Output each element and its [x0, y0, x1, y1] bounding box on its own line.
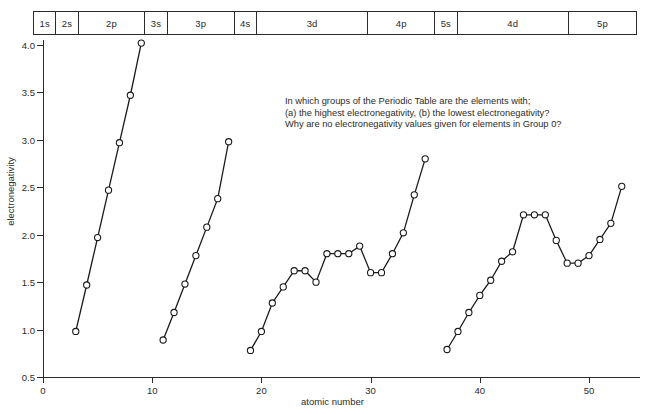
data-point-marker: [313, 279, 319, 285]
x-tick: [480, 377, 481, 383]
x-tick-label: 10: [147, 385, 158, 396]
data-point-marker: [575, 260, 581, 266]
x-tick-label: 40: [475, 385, 486, 396]
y-tick: [37, 235, 43, 236]
data-point-marker: [105, 187, 111, 193]
question-note: In which groups of the Periodic Table ar…: [285, 96, 615, 131]
y-tick: [37, 282, 43, 283]
data-point-marker: [116, 140, 122, 146]
question-note-line-2: (a) the highest electronegativity, (b) t…: [285, 108, 615, 120]
x-tick-label: 30: [365, 385, 376, 396]
data-point-marker: [269, 300, 275, 306]
y-tick: [37, 45, 43, 46]
x-tick: [43, 377, 44, 383]
data-point-marker: [597, 236, 603, 242]
data-point-marker: [422, 156, 428, 162]
data-point-marker: [488, 277, 494, 283]
data-point-marker: [291, 268, 297, 274]
data-point-marker: [499, 258, 505, 264]
data-point-marker: [226, 139, 232, 145]
data-point-marker: [346, 251, 352, 257]
y-tick: [37, 330, 43, 331]
data-point-marker: [619, 183, 625, 189]
data-point-marker: [95, 234, 101, 240]
data-point-marker: [553, 237, 559, 243]
data-point-marker: [608, 220, 614, 226]
data-point-marker: [204, 224, 210, 230]
data-point-marker: [411, 192, 417, 198]
data-point-marker: [368, 270, 374, 276]
x-tick: [589, 377, 590, 383]
data-point-marker: [400, 230, 406, 236]
series-line-period-5: [447, 186, 622, 349]
data-point-marker: [477, 292, 483, 298]
y-tick: [37, 140, 43, 141]
data-point-marker: [455, 328, 461, 334]
data-point-marker: [280, 284, 286, 290]
data-point-marker: [182, 281, 188, 287]
data-point-marker: [84, 282, 90, 288]
data-point-marker: [324, 251, 330, 257]
data-point-marker: [444, 346, 450, 352]
x-tick: [152, 377, 153, 383]
y-tick: [37, 187, 43, 188]
data-point-marker: [73, 328, 79, 334]
data-point-marker: [466, 309, 472, 315]
data-point-marker: [531, 212, 537, 218]
data-point-marker: [193, 252, 199, 258]
x-tick: [261, 377, 262, 383]
data-point-marker: [564, 260, 570, 266]
data-point-marker: [389, 251, 395, 257]
y-tick: [37, 92, 43, 93]
data-point-marker: [378, 270, 384, 276]
data-point-marker: [138, 40, 144, 46]
x-tick-label: 20: [256, 385, 267, 396]
question-note-line-3: Why are no electronegativity values give…: [285, 119, 615, 131]
data-point-marker: [335, 251, 341, 257]
x-tick-label: 0: [40, 385, 45, 396]
data-point-marker: [258, 328, 264, 334]
x-tick: [371, 377, 372, 383]
data-point-marker: [542, 212, 548, 218]
data-series-layer: [0, 0, 665, 414]
x-tick-label: 50: [584, 385, 595, 396]
data-point-marker: [127, 92, 133, 98]
data-point-marker: [247, 347, 253, 353]
data-point-marker: [160, 337, 166, 343]
data-point-marker: [357, 243, 363, 249]
data-point-marker: [302, 268, 308, 274]
data-point-marker: [215, 196, 221, 202]
data-point-marker: [171, 309, 177, 315]
data-point-marker: [509, 249, 515, 255]
data-point-marker: [520, 212, 526, 218]
data-point-marker: [586, 252, 592, 258]
electronegativity-figure: 1s2s2p3s3p4s3d4p5s4d5p 0.51.01.52.02.53.…: [0, 0, 665, 414]
question-note-line-1: In which groups of the Periodic Table ar…: [285, 96, 615, 108]
